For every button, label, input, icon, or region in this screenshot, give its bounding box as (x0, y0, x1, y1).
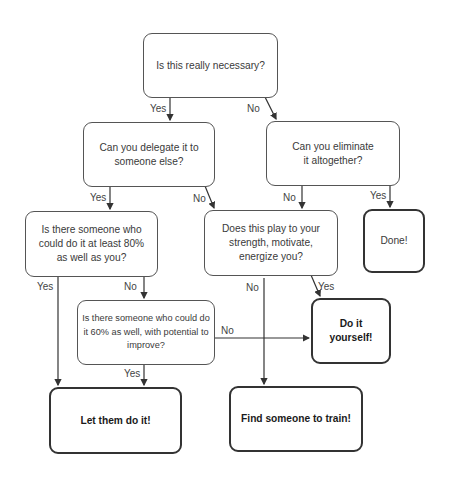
edge-label-no: No (247, 103, 260, 114)
node-text: Is this really necessary? (156, 59, 265, 73)
node-text: Let them do it! (80, 414, 150, 428)
node-text: Do it yourself! (327, 317, 375, 345)
node-delegate: Can you delegate it to someone else? (83, 122, 215, 187)
node-find-someone-to-train: Find someone to train! (229, 386, 363, 452)
node-someone-60: Is there someone who could do it 60% as … (77, 300, 215, 365)
node-play-to-strength: Does this play to your strength, motivat… (204, 210, 338, 276)
edge-label-no: No (193, 193, 206, 204)
edge-label-yes: Yes (370, 190, 386, 201)
edge-label-yes: Yes (150, 103, 166, 114)
edge-label-no: No (246, 282, 259, 293)
node-text: Is there someone who could do it 60% as … (82, 312, 210, 353)
node-text: Find someone to train! (241, 412, 351, 426)
edge-label-yes: Yes (37, 281, 53, 292)
node-let-them-do-it: Let them do it! (49, 387, 182, 454)
edge-label-no: No (221, 325, 234, 336)
edge-label-yes: Yes (318, 281, 334, 292)
node-done: Done! (363, 209, 425, 273)
node-text: Can you delegate it to someone else? (98, 141, 200, 169)
node-text: Can you eliminate it altogether? (289, 140, 377, 168)
node-text: Does this play to your strength, motivat… (217, 222, 325, 264)
node-is-this-necessary: Is this really necessary? (143, 33, 278, 98)
edge-label-yes: Yes (124, 368, 140, 379)
edge-label-no: No (283, 192, 296, 203)
edge-label-yes: Yes (90, 192, 106, 203)
node-eliminate: Can you eliminate it altogether? (266, 121, 400, 186)
node-text: Is there someone who could do it at leas… (34, 223, 149, 265)
node-do-it-yourself: Do it yourself! (311, 298, 391, 364)
edge-label-no: No (124, 281, 137, 292)
node-text: Done! (380, 234, 407, 248)
node-someone-80: Is there someone who could do it at leas… (25, 211, 158, 277)
